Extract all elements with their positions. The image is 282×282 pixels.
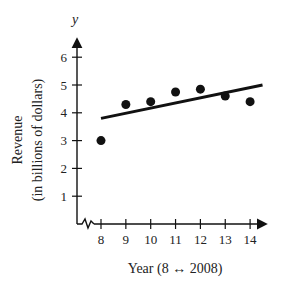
y-axis-title: Revenue xyxy=(10,116,25,165)
y-tick-label: 4 xyxy=(61,105,68,120)
y-tick-label: 2 xyxy=(61,161,68,176)
y-axis-letter: y xyxy=(70,12,79,27)
data-point xyxy=(221,92,230,101)
x-tick-label: 13 xyxy=(219,232,232,247)
data-point xyxy=(246,97,255,106)
x-tick-label: 10 xyxy=(144,232,157,247)
y-tick-label: 3 xyxy=(61,133,68,148)
y-tick-label: 5 xyxy=(61,78,68,93)
x-tick-label: 8 xyxy=(98,232,105,247)
x-tick-label: 11 xyxy=(169,232,182,247)
y-tick-label: 1 xyxy=(61,189,68,204)
scatter-chart: 123456891011121314 y Year (8 ↔ 2008) Rev… xyxy=(0,0,282,282)
data-point xyxy=(97,136,106,145)
x-tick-label: 14 xyxy=(244,232,258,247)
x-tick-label: 12 xyxy=(194,232,207,247)
axes xyxy=(77,40,265,228)
y-axis-subtitle: (in billions of dollars) xyxy=(30,78,46,201)
x-tick-label: 9 xyxy=(123,232,130,247)
data-point xyxy=(196,85,205,94)
data-point xyxy=(121,100,130,109)
y-tick-label: 6 xyxy=(61,50,68,65)
x-axis-title: Year (8 ↔ 2008) xyxy=(128,261,223,277)
data-point xyxy=(171,87,180,96)
data-point xyxy=(146,97,155,106)
ticks: 123456891011121314 xyxy=(61,50,258,247)
